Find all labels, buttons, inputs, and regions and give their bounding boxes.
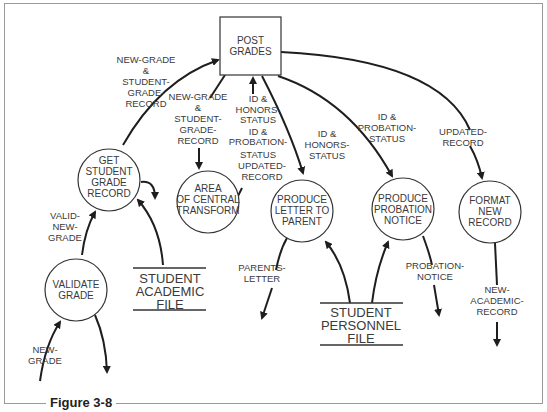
svg-text:NEW-GRADE: NEW-GRADE — [117, 54, 176, 65]
flow-validate-output — [95, 315, 107, 372]
svg-text:GRADE-: GRADE- — [180, 124, 217, 135]
node-produce-probation-notice: PRODUCE PROBATION NOTICE — [372, 178, 434, 240]
svg-text:PROBATION-: PROBATION- — [406, 260, 464, 271]
store-student-personnel-file: STUDENT PERSONNEL FILE — [320, 303, 403, 346]
svg-text:PROBATION-: PROBATION- — [358, 122, 416, 133]
svg-text:GRADE-: GRADE- — [128, 87, 165, 98]
svg-text:STUDENT: STUDENT — [85, 166, 132, 177]
svg-text:GRADE: GRADE — [58, 290, 94, 301]
svg-text:HONORS-: HONORS- — [305, 139, 350, 150]
svg-text:GRADE: GRADE — [48, 232, 82, 243]
flow-get-record-side-output — [141, 182, 155, 198]
svg-text:STATUS: STATUS — [240, 149, 276, 160]
node-produce-letter-to-parent: PRODUCE LETTER TO PARENT — [271, 180, 333, 242]
svg-text:ID &: ID & — [318, 128, 337, 139]
svg-text:PARENTS-: PARENTS- — [238, 262, 285, 273]
svg-text:RECORD: RECORD — [468, 217, 511, 228]
svg-text:AREA: AREA — [194, 183, 222, 194]
svg-text:PROBATION: PROBATION — [374, 204, 432, 215]
label-to-post-grades: NEW-GRADE & STUDENT- GRADE- RECORD — [117, 54, 176, 109]
svg-text:STATUS: STATUS — [240, 114, 276, 125]
flow-valid-new-grade — [82, 212, 95, 255]
svg-text:RECORD: RECORD — [476, 306, 517, 317]
svg-text:FILE: FILE — [156, 297, 184, 312]
svg-text:NEW-: NEW- — [484, 284, 509, 295]
label-new-academic-record: NEW- ACADEMIC- RECORD — [470, 284, 523, 317]
label-parents-letter: PARENTS- LETTER — [238, 262, 285, 284]
svg-text:FORMAT: FORMAT — [469, 195, 510, 206]
svg-text:NOTICE: NOTICE — [384, 215, 422, 226]
svg-text:PRODUCE: PRODUCE — [378, 193, 428, 204]
svg-text:TRANSFORM: TRANSFORM — [176, 205, 239, 216]
svg-text:ID &: ID & — [378, 111, 397, 122]
node-format-new-record: FORMAT NEW RECORD — [459, 181, 521, 243]
svg-text:FILE: FILE — [347, 331, 375, 346]
label-valid-new-grade: VALID- NEW- GRADE — [48, 210, 82, 243]
svg-text:NEW-: NEW- — [52, 221, 77, 232]
svg-text:POST: POST — [237, 35, 264, 46]
svg-text:GRADES: GRADES — [229, 46, 272, 57]
label-new-grade-in: NEW- GRADE — [28, 344, 62, 366]
svg-text:GET: GET — [99, 155, 120, 166]
node-post-grades: POST GRADES — [220, 17, 281, 75]
svg-text:RECORD: RECORD — [442, 137, 483, 148]
svg-text:PRODUCE: PRODUCE — [277, 194, 327, 205]
svg-text:STUDENT-: STUDENT- — [174, 113, 222, 124]
svg-text:NEW: NEW — [478, 206, 502, 217]
svg-text:ACADEMIC-: ACADEMIC- — [470, 295, 523, 306]
svg-text:NOTICE: NOTICE — [417, 271, 453, 282]
svg-text:RECORD: RECORD — [87, 188, 130, 199]
svg-text:ID &: ID & — [249, 93, 268, 104]
svg-text:&: & — [195, 102, 202, 113]
label-to-letter: ID & HONORS- STATUS — [305, 128, 350, 161]
flow-personnel-file-to-probation — [372, 242, 388, 303]
svg-text:RECORD: RECORD — [177, 135, 218, 146]
svg-text:VALIDATE: VALIDATE — [53, 279, 100, 290]
svg-text:STATUS: STATUS — [309, 150, 345, 161]
label-central-returns: ID & HONORS- STATUS ID & PROBATION- STAT… — [229, 93, 287, 182]
svg-text:UPDATED-: UPDATED- — [238, 160, 286, 171]
flow-academic-file-to-get-record — [138, 200, 163, 265]
flow-personnel-file-to-letter — [326, 242, 350, 303]
svg-text:NEW-: NEW- — [32, 344, 57, 355]
svg-text:PROBATION-: PROBATION- — [229, 136, 287, 147]
svg-text:LETTER TO: LETTER TO — [275, 205, 330, 216]
svg-text:LETTER: LETTER — [244, 273, 281, 284]
node-get-student-grade-record: GET STUDENT GRADE RECORD — [78, 149, 140, 211]
svg-text:STUDENT-: STUDENT- — [122, 76, 170, 87]
svg-text:RECORD: RECORD — [125, 98, 166, 109]
svg-text:NEW-GRADE: NEW-GRADE — [169, 91, 228, 102]
svg-text:GRADE: GRADE — [91, 177, 127, 188]
node-validate-grade: VALIDATE GRADE — [45, 259, 107, 321]
svg-text:PARENT: PARENT — [282, 216, 322, 227]
svg-text:&: & — [143, 65, 150, 76]
data-flow-diagram: POST GRADES GET STUDENT GRADE RECORD VAL… — [0, 0, 547, 412]
label-to-central: NEW-GRADE & STUDENT- GRADE- RECORD — [169, 91, 228, 146]
svg-text:STATUS: STATUS — [369, 133, 405, 144]
store-student-academic-file: STUDENT ACADEMIC FILE — [133, 268, 206, 312]
svg-text:OF CENTRAL: OF CENTRAL — [176, 194, 240, 205]
svg-text:RECORD: RECORD — [241, 171, 282, 182]
svg-text:UPDATED-: UPDATED- — [439, 126, 487, 137]
node-area-of-central-transform: AREA OF CENTRAL TRANSFORM — [176, 171, 240, 233]
label-probation-notice: PROBATION- NOTICE — [406, 260, 464, 282]
svg-text:VALID-: VALID- — [50, 210, 80, 221]
svg-text:GRADE: GRADE — [28, 355, 62, 366]
label-to-format: UPDATED- RECORD — [439, 126, 487, 148]
